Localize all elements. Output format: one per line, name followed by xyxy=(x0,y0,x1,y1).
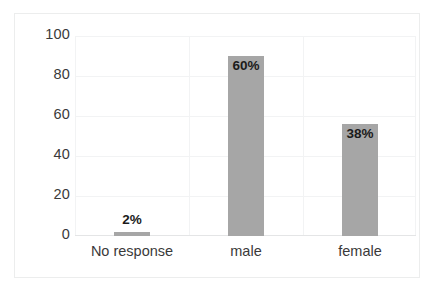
y-tick-label: 20 xyxy=(18,187,70,202)
y-tick-label: 60 xyxy=(18,107,70,122)
y-tick-label: 100 xyxy=(18,27,70,42)
x-tick-label-male: male xyxy=(189,243,303,260)
bar-value-label: 38% xyxy=(346,127,373,141)
bar-group-female: 38% xyxy=(303,36,417,236)
x-tick-label-no-response: No response xyxy=(75,243,189,260)
bar-group-male: 60% xyxy=(189,36,303,236)
bar-no-response[interactable] xyxy=(114,232,150,236)
bar-value-label: 2% xyxy=(122,213,142,227)
x-axis: No response male female xyxy=(75,243,416,267)
bar-value-label: 60% xyxy=(232,59,259,73)
y-axis: 100 80 60 40 20 0 xyxy=(18,27,70,247)
plot-area: 2% 60% 38% xyxy=(75,36,416,236)
bar-chart: 100 80 60 40 20 0 2% 60% 38% xyxy=(0,0,444,297)
y-tick-label: 80 xyxy=(18,67,70,82)
bar-female[interactable] xyxy=(342,124,378,236)
y-tick-label: 0 xyxy=(18,227,70,242)
x-tick-label-female: female xyxy=(303,243,417,260)
y-tick-label: 40 xyxy=(18,147,70,162)
bar-group-no-response: 2% xyxy=(75,36,189,236)
bar-male[interactable] xyxy=(228,56,264,236)
